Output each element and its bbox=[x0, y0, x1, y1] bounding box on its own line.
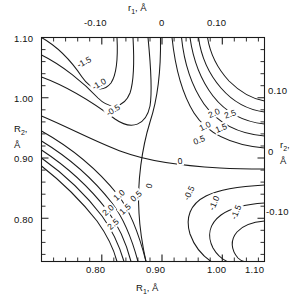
top-tick-label-1: 0 bbox=[159, 17, 164, 28]
contour-zero-vertical bbox=[139, 38, 161, 262]
left-axis-title-line2: Å bbox=[14, 140, 27, 150]
bottom-axis-title-main: R bbox=[136, 282, 143, 293]
left-axis-title-main: R bbox=[14, 123, 21, 134]
contour-zero-horizontal bbox=[42, 116, 265, 169]
bottom-axis-title: R1, Å bbox=[136, 283, 158, 297]
left-axis-title-unit: , bbox=[25, 123, 28, 134]
right-tick-label-1: 0 bbox=[268, 146, 273, 157]
bottom-tick-label-0: 0.80 bbox=[86, 264, 105, 275]
right-axis-title: r2, Å bbox=[280, 140, 290, 166]
contour-value-label: 0 bbox=[176, 156, 184, 167]
left-tick-label-2: 0.90 bbox=[14, 153, 33, 164]
left-axis-title: R2, Å bbox=[14, 124, 27, 150]
bottom-tick-label-2: 1.00 bbox=[207, 264, 226, 275]
contour-neg-1.0-upper bbox=[42, 38, 134, 106]
top-axis-title-unit: , Å bbox=[135, 2, 147, 13]
right-axis-title-line1: r2, bbox=[280, 140, 290, 154]
left-axis-title-line1: R2, bbox=[14, 124, 27, 138]
top-axis-title: r1, Å bbox=[128, 3, 147, 17]
axis-ticks bbox=[42, 38, 265, 262]
plot-canvas bbox=[0, 0, 305, 301]
contour-lines bbox=[42, 38, 265, 262]
top-tick-label-2: 0.10 bbox=[207, 17, 226, 28]
top-tick-label-0: -0.10 bbox=[84, 17, 107, 28]
contour-pos-2.5-upper bbox=[208, 38, 265, 102]
contour-pos-2.0-upper bbox=[199, 38, 265, 113]
left-tick-label-3: 0.80 bbox=[14, 214, 33, 225]
bottom-tick-label-3: 1.10 bbox=[245, 264, 264, 275]
contour-neg-1.5-lower bbox=[232, 221, 264, 262]
bottom-tick-label-1: 0.90 bbox=[146, 264, 165, 275]
right-axis-title-line2: Å bbox=[280, 156, 290, 166]
contour-plot-figure: 0.80 0.90 1.00 1.10 -0.10 0 0.10 1.10 1.… bbox=[0, 0, 305, 301]
right-tick-label-2: -0.10 bbox=[266, 206, 289, 217]
right-tick-label-0: 0.10 bbox=[268, 85, 287, 96]
left-tick-label-0: 1.10 bbox=[14, 33, 33, 44]
bottom-axis-title-unit: , Å bbox=[147, 282, 159, 293]
left-tick-label-1: 1.00 bbox=[14, 93, 33, 104]
plot-frame bbox=[42, 38, 265, 262]
right-axis-title-unit: , bbox=[287, 139, 290, 150]
